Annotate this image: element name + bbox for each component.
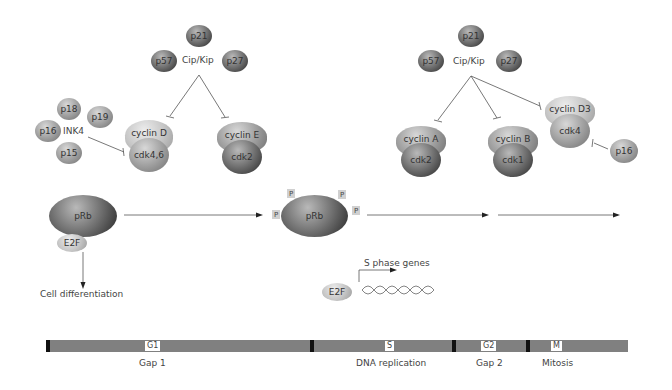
p16-protein-left: p16: [35, 120, 61, 142]
cdk4: cdk4: [550, 114, 590, 148]
phase-name-g2: Gap 2: [476, 358, 503, 368]
cyclin-d3-label: cyclin D3: [549, 104, 590, 114]
p19-label: p19: [91, 112, 108, 122]
p21-protein-right: p21: [458, 25, 484, 47]
cdk1: cdk1: [493, 143, 533, 177]
phase-marker: [526, 340, 530, 352]
phase-name-s: DNA replication: [356, 358, 426, 368]
p21-protein: p21: [186, 25, 212, 47]
connector-lines: [0, 0, 672, 390]
phase-code-g2: G2: [481, 341, 496, 351]
cell-differentiation-label: Cell differentiation: [40, 289, 123, 299]
phase-marker: [46, 340, 50, 352]
p27-right-label: p27: [500, 56, 517, 66]
p21-right-label: p21: [462, 31, 479, 41]
cipkip-label-right: Cip/Kip: [453, 56, 485, 66]
p57-protein: p57: [151, 50, 177, 72]
cdk46: cdk4,6: [129, 138, 169, 172]
cdk46-label: cdk4,6: [134, 150, 164, 160]
p27-label: p27: [226, 56, 243, 66]
cdk4-label: cdk4: [559, 126, 581, 136]
phase-name-g1: Gap 1: [139, 358, 166, 368]
p16-label: p16: [39, 126, 56, 136]
p15-protein: p15: [56, 142, 82, 164]
prb-phosphorylated: pRb: [281, 195, 348, 237]
ink4-label: INK4: [63, 126, 84, 136]
p16-protein-right: p16: [610, 139, 638, 163]
prb-unphosphorylated: pRb: [49, 195, 117, 237]
prb-phos-label: pRb: [306, 211, 324, 221]
phosphate-tag: P: [287, 189, 295, 198]
e2f-bound-label: E2F: [64, 238, 81, 248]
p19-protein: p19: [87, 106, 113, 128]
cdk2-right: cdk2: [401, 143, 441, 177]
cyclin-d-label: cyclin D: [131, 128, 167, 138]
cdk2-right-label: cdk2: [410, 155, 432, 165]
phosphate-tag: P: [338, 190, 346, 199]
p57-protein-right: p57: [418, 50, 444, 72]
cdk1-label: cdk1: [502, 155, 524, 165]
p15-label: p15: [60, 148, 77, 158]
phase-marker: [452, 340, 456, 352]
p18-label: p18: [60, 104, 77, 114]
phase-code-g1: G1: [145, 341, 160, 351]
p27-protein-right: p27: [496, 50, 522, 72]
phosphate-tag: P: [272, 210, 280, 219]
cdk2-left-label: cdk2: [231, 152, 253, 162]
p57-label: p57: [155, 56, 172, 66]
p21-label: p21: [190, 31, 207, 41]
phase-name-m: Mitosis: [542, 358, 573, 368]
s-phase-genes-label: S phase genes: [364, 258, 430, 268]
p18-protein: p18: [57, 98, 81, 120]
cdk2-left: cdk2: [222, 140, 262, 174]
phosphate-tag: P: [352, 206, 360, 215]
prb-label: pRb: [74, 211, 92, 221]
p16-right-label: p16: [615, 146, 632, 156]
e2f-free: E2F: [322, 283, 352, 301]
e2f-bound: E2F: [57, 234, 87, 252]
cyclin-e-label: cyclin E: [225, 130, 259, 140]
e2f-free-label: E2F: [329, 287, 346, 297]
p27-protein: p27: [222, 50, 248, 72]
cell-cycle-bar: [46, 340, 628, 352]
phase-code-s: S: [385, 341, 394, 351]
cipkip-label-left: Cip/Kip: [182, 55, 214, 65]
phase-marker: [310, 340, 314, 352]
phase-code-m: M: [551, 341, 562, 351]
p57-right-label: p57: [422, 56, 439, 66]
